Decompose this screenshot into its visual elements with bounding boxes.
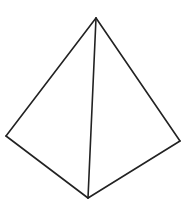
- tetrahedron-edges: [6, 18, 180, 198]
- edge-right-bottom: [88, 141, 180, 198]
- edge-left-bottom: [6, 136, 88, 198]
- edge-top-right: [96, 18, 180, 141]
- tetrahedron-diagram: [0, 0, 189, 221]
- edge-top-bottom: [88, 18, 96, 198]
- edge-top-left: [6, 18, 96, 136]
